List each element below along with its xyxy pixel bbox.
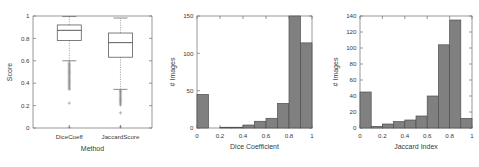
jaccard-hist-bar — [450, 20, 461, 128]
boxplot-x-axis-label: Method — [81, 145, 104, 152]
dice-histogram-svg: 05010015000.20.40.60.81Dice Coefficient#… — [160, 0, 320, 167]
jaccard-hist-bar — [394, 122, 405, 128]
jaccard-hist-ytick-label: 60 — [350, 76, 357, 83]
boxplot-category-label: DiceCoeff — [56, 133, 83, 140]
jaccard-hist-ytick-label: 140 — [346, 12, 357, 19]
dice-hist-bar — [243, 125, 255, 128]
jaccard-hist-y-axis-label: # Images — [332, 57, 340, 86]
boxplot-ytick-label: 0.6 — [21, 57, 30, 64]
jaccard-hist-bar — [405, 120, 416, 128]
boxplot-axis-frame — [33, 16, 152, 128]
dice-hist-bar — [266, 118, 278, 128]
jaccard-histogram-panel: 02040608010012014000.20.40.60.81Jaccard … — [320, 0, 479, 167]
dice-histogram-panel: 05010015000.20.40.60.81Dice Coefficient#… — [160, 0, 320, 167]
jaccard-hist-xtick-label: 0 — [358, 132, 362, 139]
dice-hist-x-axis-label: Dice Coefficient — [230, 143, 279, 150]
box-iqr-rect — [57, 25, 81, 40]
boxplot-ytick-label: 0.4 — [21, 79, 30, 86]
jaccard-hist-bar — [360, 92, 371, 128]
dice-hist-bar — [197, 94, 209, 128]
jaccard-hist-bar — [427, 96, 438, 128]
box-iqr-rect — [108, 33, 132, 57]
boxplot-axis-frame-top — [33, 16, 152, 128]
jaccard-hist-bar — [416, 116, 427, 128]
boxplot-box-group — [57, 17, 81, 129]
jaccard-hist-xtick-label: 0.8 — [445, 132, 454, 139]
dice-hist-bar — [278, 103, 290, 128]
jaccard-hist-xtick-label: 0.6 — [423, 132, 432, 139]
dice-hist-y-axis-label: # Images — [169, 57, 177, 86]
jaccard-hist-bar — [461, 118, 472, 128]
dice-hist-xtick-label: 0.8 — [285, 132, 294, 139]
boxplot-svg: 00.20.40.60.81ScoreDiceCoeffJaccardScore… — [0, 0, 160, 167]
jaccard-hist-ytick-label: 80 — [350, 60, 357, 67]
dice-hist-bar — [255, 121, 267, 128]
jaccard-hist-xtick-label: 0.2 — [378, 132, 387, 139]
dice-hist-ytick-label: 50 — [187, 87, 194, 94]
dice-hist-bar — [232, 127, 244, 128]
jaccard-hist-x-axis-label: Jaccard Index — [394, 143, 438, 150]
box-outlier-marker — [119, 111, 122, 114]
box-outlier-marker — [68, 102, 71, 105]
boxplot-ytick-label: 0 — [26, 124, 30, 131]
jaccard-histogram-svg: 02040608010012014000.20.40.60.81Jaccard … — [320, 0, 479, 167]
jaccard-hist-ytick-label: 120 — [346, 28, 357, 35]
jaccard-hist-ytick-label: 0 — [353, 124, 357, 131]
jaccard-hist-bar — [438, 45, 449, 128]
boxplot-ytick-label: 1 — [26, 12, 30, 19]
figure-canvas: 00.20.40.60.81ScoreDiceCoeffJaccardScore… — [0, 0, 479, 167]
dice-hist-ytick-label: 0 — [190, 124, 194, 131]
boxplot-box-group — [108, 18, 132, 128]
dice-hist-bar — [289, 16, 301, 128]
jaccard-hist-xtick-label: 0.4 — [400, 132, 409, 139]
dice-hist-xtick-label: 0.6 — [262, 132, 271, 139]
jaccard-hist-bar — [382, 124, 393, 128]
dice-hist-xtick-label: 1 — [310, 132, 314, 139]
boxplot-y-axis-label: Score — [6, 63, 13, 81]
dice-hist-xtick-label: 0.4 — [239, 132, 248, 139]
dice-hist-bar — [220, 127, 232, 128]
boxplot-panel: 00.20.40.60.81ScoreDiceCoeffJaccardScore… — [0, 0, 160, 167]
dice-hist-bar — [301, 43, 313, 128]
dice-hist-ytick-label: 100 — [183, 50, 194, 57]
jaccard-hist-ytick-label: 100 — [346, 44, 357, 51]
jaccard-hist-ytick-label: 20 — [350, 108, 357, 115]
jaccard-hist-xtick-label: 1 — [470, 132, 474, 139]
jaccard-hist-ytick-label: 40 — [350, 92, 357, 99]
boxplot-ytick-label: 0.8 — [21, 35, 30, 42]
dice-hist-xtick-label: 0 — [195, 132, 199, 139]
boxplot-category-label: JaccardScore — [102, 133, 140, 140]
dice-hist-xtick-label: 0.2 — [216, 132, 225, 139]
boxplot-ytick-label: 0.2 — [21, 102, 30, 109]
jaccard-hist-bar — [371, 126, 382, 128]
dice-hist-ytick-label: 150 — [183, 12, 194, 19]
